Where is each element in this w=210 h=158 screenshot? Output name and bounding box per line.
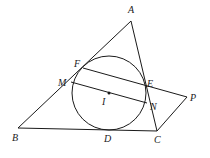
label-A: A <box>127 4 135 15</box>
segment-AC <box>131 21 157 131</box>
segment-BC <box>18 128 157 131</box>
label-N: N <box>149 101 158 112</box>
label-B: B <box>12 132 18 143</box>
segment-PC <box>157 97 187 131</box>
segment-FP <box>83 68 187 97</box>
label-M: M <box>57 77 67 88</box>
center-dot-I <box>108 92 111 95</box>
label-P: P <box>189 92 196 103</box>
label-C: C <box>154 134 161 145</box>
geometry-diagram: A B C D E F M N I P <box>0 0 210 158</box>
segment-AB <box>18 21 131 128</box>
label-E: E <box>146 78 153 89</box>
label-I: I <box>101 96 106 107</box>
label-F: F <box>73 58 81 69</box>
label-D: D <box>103 133 112 144</box>
